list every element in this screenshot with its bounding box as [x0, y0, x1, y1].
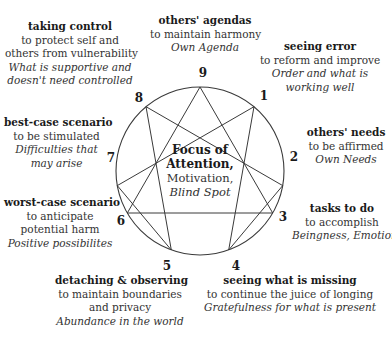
blind-spot-5: Abundance in the world [55, 315, 185, 329]
label-point-9: others' agendas to maintain harmony Own … [150, 14, 260, 55]
focus-5: detaching & observing [55, 274, 185, 288]
point-number-5: 5 [163, 259, 171, 273]
motivation-8a: to protect self and [5, 34, 135, 48]
label-point-5: detaching & observing to maintain bounda… [55, 274, 185, 328]
focus-8: taking control [5, 20, 135, 34]
point-number-2: 2 [290, 150, 298, 164]
blind-spot-2: Own Needs [300, 153, 392, 167]
motivation-5a: to maintain boundaries [55, 288, 185, 302]
blind-spot-4: Gratefulness for what is present [200, 301, 380, 315]
focus-2: others' needs [300, 126, 392, 140]
label-point-8: taking control to protect self and other… [5, 20, 135, 88]
center-motivation: Motivation, [166, 171, 234, 185]
focus-1: seeing error [255, 40, 385, 54]
motivation-5b: and privacy [55, 301, 185, 315]
focus-4: seeing what is missing [200, 274, 380, 288]
center-title-2: Attention, [166, 157, 234, 171]
motivation-2: to be affirmed [300, 140, 392, 154]
label-point-6: worst-case scenario to anticipate potent… [4, 196, 116, 250]
focus-3: tasks to do [292, 202, 392, 216]
motivation-6a: to anticipate [4, 210, 116, 224]
point-number-8: 8 [135, 91, 143, 105]
blind-spot-1a: Order and what is [255, 67, 385, 81]
motivation-7: to be stimulated [4, 130, 109, 144]
motivation-1: to reform and improve [255, 54, 385, 68]
point-number-9: 9 [199, 66, 207, 80]
label-point-4: seeing what is missing to continue the j… [200, 274, 380, 315]
blind-spot-8a: What is supportive and [5, 61, 135, 75]
point-number-4: 4 [232, 259, 240, 273]
blind-spot-6: Positive possibilites [4, 237, 116, 251]
label-point-3: tasks to do to accomplish Beingness, Emo… [292, 202, 392, 243]
center-title-1: Focus of [166, 143, 234, 157]
center-blind-spot: Blind Spot [166, 185, 234, 199]
focus-9: others' agendas [150, 14, 260, 28]
blind-spot-1b: working well [255, 81, 385, 95]
label-point-2: others' needs to be affirmed Own Needs [300, 126, 392, 167]
focus-6: worst-case scenario [4, 196, 116, 210]
center-legend: Focus of Attention, Motivation, Blind Sp… [166, 143, 234, 199]
blind-spot-9: Own Agenda [150, 41, 260, 55]
motivation-8b: others from vulnerability [5, 47, 135, 61]
point-number-6: 6 [117, 214, 125, 228]
motivation-6b: potential harm [4, 223, 116, 237]
point-number-3: 3 [279, 210, 287, 224]
focus-7: best-case scenario [4, 116, 109, 130]
blind-spot-8b: doesn't need controlled [5, 74, 135, 88]
blind-spot-7a: Difficulties that [4, 143, 109, 157]
blind-spot-7b: may arise [4, 157, 109, 171]
label-point-7: best-case scenario to be stimulated Diff… [4, 116, 109, 170]
motivation-3: to accomplish [292, 216, 392, 230]
motivation-4: to continue the juice of longing [200, 288, 380, 302]
motivation-9: to maintain harmony [150, 28, 260, 42]
label-point-1: seeing error to reform and improve Order… [255, 40, 385, 94]
blind-spot-3: Beingness, Emotions [292, 229, 392, 243]
